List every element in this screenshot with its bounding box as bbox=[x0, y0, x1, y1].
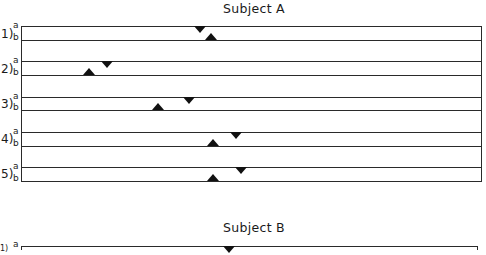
line-b-label: b bbox=[13, 139, 19, 148]
right-border bbox=[481, 26, 482, 182]
line-a-label: a bbox=[13, 240, 19, 249]
line-a-label: a bbox=[13, 21, 19, 30]
up-triangle-marker-icon bbox=[207, 174, 219, 181]
line-b-label: b bbox=[13, 174, 19, 183]
line-b-label: b bbox=[13, 33, 19, 42]
row-label: 4) bbox=[1, 133, 13, 145]
line-a bbox=[21, 132, 482, 133]
line-b bbox=[21, 110, 482, 111]
line-b bbox=[21, 75, 482, 76]
up-triangle-marker-icon bbox=[152, 103, 164, 110]
row-label: 5) bbox=[1, 168, 13, 180]
panel-title-subject-b: Subject B bbox=[223, 220, 285, 235]
panel-title-subject-a: Subject A bbox=[223, 1, 285, 16]
up-triangle-marker-icon bbox=[83, 68, 95, 75]
down-triangle-marker-icon bbox=[230, 132, 242, 139]
left-border bbox=[21, 26, 22, 182]
line-b-label: b bbox=[13, 103, 19, 112]
line-a-label: a bbox=[13, 127, 19, 136]
down-triangle-marker-icon bbox=[223, 246, 235, 253]
up-triangle-marker-icon bbox=[205, 33, 217, 40]
line-b bbox=[21, 146, 482, 147]
line-a bbox=[21, 26, 482, 27]
row-label: 1) bbox=[1, 28, 13, 40]
line-a-label: a bbox=[13, 92, 19, 101]
down-triangle-marker-icon bbox=[101, 61, 113, 68]
line-b-label: b bbox=[13, 68, 19, 77]
down-triangle-marker-icon bbox=[235, 167, 247, 174]
line-a-label: a bbox=[13, 56, 19, 65]
line-a bbox=[21, 97, 482, 98]
line-a-label: a bbox=[13, 162, 19, 171]
row-label: 2) bbox=[1, 63, 13, 75]
line-a bbox=[21, 167, 482, 168]
line-b bbox=[21, 181, 482, 182]
down-triangle-marker-icon bbox=[194, 26, 206, 33]
row-label: 1) bbox=[0, 243, 8, 255]
up-triangle-marker-icon bbox=[207, 139, 219, 146]
line-b bbox=[21, 40, 482, 41]
down-triangle-marker-icon bbox=[183, 97, 195, 104]
row-label: 3) bbox=[1, 98, 13, 110]
line-a bbox=[21, 246, 478, 247]
line-a bbox=[21, 61, 482, 62]
